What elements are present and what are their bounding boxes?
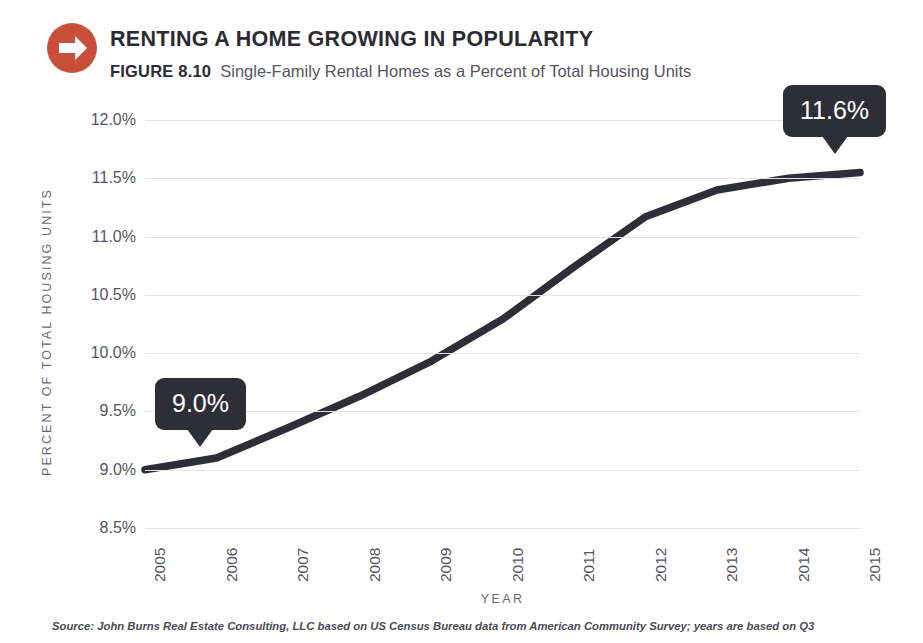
annotation-label: 11.6% (800, 96, 869, 124)
arrow-right-glyph (47, 23, 97, 73)
gridline (145, 411, 860, 412)
x-axis-title: YEAR (145, 592, 860, 606)
y-axis-tick-label: 10.5% (16, 286, 136, 304)
chart-plot-area (145, 120, 860, 528)
x-axis-tick-text: 2015 (866, 548, 884, 582)
x-axis-tick-text: 2008 (366, 548, 384, 582)
gridline (145, 237, 860, 238)
y-axis-tick-label: 9.0% (16, 461, 136, 479)
y-axis-tick-label: 12.0% (16, 111, 136, 129)
x-axis-tick-text: 2009 (437, 548, 455, 582)
x-axis-tick-text: 2006 (223, 548, 241, 582)
source-note: Source: John Burns Real Estate Consultin… (52, 620, 814, 632)
x-axis-tick-text: 2013 (723, 548, 741, 582)
y-axis-ticks: 12.0%11.5%11.0%10.5%10.0%9.5%9.0%8.5% (8, 120, 136, 528)
gridline (145, 353, 860, 354)
callout-pointer-icon (187, 429, 213, 447)
y-axis-tick-label: 9.5% (16, 402, 136, 420)
figure-number: FIGURE 8.10 (110, 62, 211, 80)
y-axis-tick-label: 10.0% (16, 344, 136, 362)
gridline (145, 295, 860, 296)
annotation-callout-start: 9.0% (155, 378, 246, 430)
gridline (145, 178, 860, 179)
callout-pointer-icon (822, 136, 848, 154)
y-axis-tick-label: 11.0% (16, 228, 136, 246)
data-line-series (145, 120, 860, 528)
x-axis-tick-text: 2011 (580, 549, 598, 582)
x-axis-tick-text: 2010 (509, 548, 527, 582)
gridline (145, 120, 860, 121)
gridline (145, 470, 860, 471)
y-axis-tick-label: 11.5% (16, 169, 136, 187)
figure-subtitle-row: FIGURE 8.10Single-Family Rental Homes as… (110, 62, 691, 81)
x-axis-tick-text: 2007 (294, 548, 312, 582)
x-axis-ticks: 2005200620072008200920102011201220132014… (145, 528, 860, 588)
y-axis-tick-label: 8.5% (16, 519, 136, 537)
annotation-callout-end: 11.6% (783, 85, 886, 137)
x-axis-tick-text: 2005 (151, 548, 169, 582)
x-axis-tick-text: 2012 (652, 548, 670, 582)
figure-header: RENTING A HOME GROWING IN POPULARITY FIG… (0, 0, 923, 100)
x-axis-tick-text: 2014 (795, 548, 813, 582)
figure-subtitle: Single-Family Rental Homes as a Percent … (220, 62, 691, 80)
annotation-label: 9.0% (172, 389, 229, 417)
page-title: RENTING A HOME GROWING IN POPULARITY (110, 27, 593, 52)
